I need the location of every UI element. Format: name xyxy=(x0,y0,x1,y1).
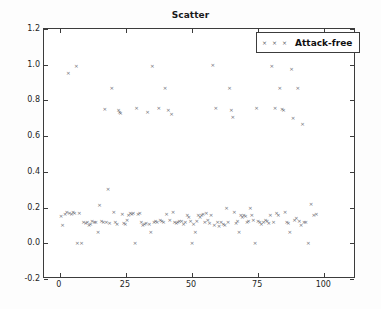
scatter-point: × xyxy=(226,220,231,225)
scatter-point: × xyxy=(177,219,182,224)
scatter-point: × xyxy=(117,110,122,115)
scatter-point: × xyxy=(198,215,203,220)
scatter-point: × xyxy=(302,220,307,225)
scatter-point: × xyxy=(273,106,278,111)
scatter-point: × xyxy=(230,115,235,120)
scatter-point: × xyxy=(269,64,274,69)
x-tick-label: 50 xyxy=(171,280,211,289)
scatter-point: × xyxy=(256,219,261,224)
scatter-point: × xyxy=(284,220,289,225)
scatter-point: × xyxy=(155,220,160,225)
scatter-point: × xyxy=(147,222,152,227)
scatter-point: × xyxy=(142,222,147,227)
scatter-point: × xyxy=(139,220,144,225)
scatter-point: × xyxy=(67,211,72,216)
scatter-point: × xyxy=(137,211,142,216)
scatter-point: × xyxy=(159,219,164,224)
y-tick-label: 0.8 xyxy=(4,95,40,104)
scatter-point: × xyxy=(172,220,177,225)
scatter-point: × xyxy=(136,212,141,217)
x-tick-label: 75 xyxy=(237,280,277,289)
scatter-point: × xyxy=(156,106,161,111)
scatter-point: × xyxy=(69,212,74,217)
scatter-point: × xyxy=(171,210,176,215)
scatter-point: × xyxy=(191,222,196,227)
scatter-point: × xyxy=(83,221,88,226)
scatter-point: × xyxy=(251,218,256,223)
scatter-point: × xyxy=(118,111,123,116)
scatter-point: × xyxy=(246,219,251,224)
scatter-point: × xyxy=(277,86,282,91)
scatter-point: × xyxy=(167,218,172,223)
scatter-point: × xyxy=(125,218,130,223)
scatter-point: × xyxy=(299,223,304,228)
legend-entry-label: Attack-free xyxy=(295,38,352,48)
scatter-point: × xyxy=(163,86,168,91)
scatter-point: × xyxy=(145,110,150,115)
scatter-point: × xyxy=(257,220,262,225)
scatter-point: × xyxy=(205,218,210,223)
scatter-point: × xyxy=(248,206,253,211)
scatter-point: × xyxy=(129,212,134,217)
scatter-figure: Scatter -0.20.00.20.40.60.81.01.2 025507… xyxy=(0,0,381,309)
y-tick-label: 1.0 xyxy=(4,59,40,68)
scatter-point: × xyxy=(74,64,79,69)
scatter-point: × xyxy=(59,214,64,219)
y-tick-mark xyxy=(44,279,48,280)
scatter-point: × xyxy=(240,215,245,220)
scatter-point: × xyxy=(199,213,204,218)
scatter-point: × xyxy=(90,219,95,224)
scatter-point: × xyxy=(229,108,234,113)
scatter-point: × xyxy=(241,213,246,218)
scatter-point: × xyxy=(131,211,136,216)
scatter-point: × xyxy=(297,219,302,224)
scatter-point: × xyxy=(111,210,116,215)
scatter-point: × xyxy=(190,241,195,246)
scatter-data-layer: ××××××××××××××××××××××××××××××××××××××××… xyxy=(44,29,354,277)
scatter-point: × xyxy=(222,223,227,228)
x-tick-label: 0 xyxy=(39,280,79,289)
scatter-point: × xyxy=(104,220,109,225)
scatter-point: × xyxy=(235,219,240,224)
page-title: Scatter xyxy=(0,10,381,20)
scatter-point: × xyxy=(92,220,97,225)
y-tick-label: -0.2 xyxy=(4,274,40,283)
scatter-point: × xyxy=(134,106,139,111)
scatter-point: × xyxy=(212,223,217,228)
scatter-point: × xyxy=(271,220,276,225)
scatter-point: × xyxy=(263,218,268,223)
scatter-point: × xyxy=(72,211,77,216)
scatter-point: × xyxy=(219,220,224,225)
scatter-point: × xyxy=(99,219,104,224)
scatter-point: × xyxy=(77,211,82,216)
scatter-point: × xyxy=(71,210,76,215)
scatter-point: × xyxy=(279,107,284,112)
scatter-point: × xyxy=(289,67,294,72)
scatter-point: × xyxy=(207,221,212,226)
scatter-point: × xyxy=(107,221,112,226)
scatter-point: × xyxy=(164,212,169,217)
scatter-point: × xyxy=(249,213,254,218)
y-tick-label: 0.6 xyxy=(4,131,40,140)
scatter-point: × xyxy=(221,222,226,227)
scatter-point: × xyxy=(295,86,300,91)
legend-box[interactable]: ××× Attack-free xyxy=(256,32,360,53)
scatter-point: × xyxy=(210,63,215,68)
scatter-point: × xyxy=(105,187,110,192)
scatter-point: × xyxy=(259,222,264,227)
scatter-point: × xyxy=(114,222,119,227)
scatter-point: × xyxy=(291,116,296,121)
scatter-point: × xyxy=(101,220,106,225)
scatter-point: × xyxy=(121,221,126,226)
x-axis-labels: 0255075100 xyxy=(43,280,355,298)
x-tick-label: 25 xyxy=(105,280,145,289)
scatter-point: × xyxy=(161,220,166,225)
scatter-point: × xyxy=(102,107,107,112)
y-tick-label: 0.0 xyxy=(4,238,40,247)
y-tick-mark xyxy=(350,279,354,280)
y-axis-labels: -0.20.00.20.40.60.81.01.2 xyxy=(0,28,40,278)
scatter-point: × xyxy=(283,210,288,215)
scatter-point: × xyxy=(238,213,243,218)
scatter-point: × xyxy=(217,224,222,229)
scatter-point: × xyxy=(128,211,133,216)
